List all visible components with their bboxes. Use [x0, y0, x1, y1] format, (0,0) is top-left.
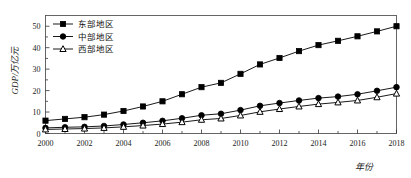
svg-text:2016: 2016 — [350, 139, 366, 148]
svg-text:0: 0 — [37, 130, 41, 139]
svg-text:2008: 2008 — [194, 139, 210, 148]
svg-text:2014: 2014 — [311, 139, 327, 148]
svg-text:50: 50 — [33, 22, 41, 31]
svg-text:30: 30 — [33, 65, 41, 74]
chart-plot-area: 2000200220042006200820102012201420162018… — [0, 0, 411, 178]
svg-text:2010: 2010 — [233, 139, 249, 148]
svg-text:2006: 2006 — [155, 139, 171, 148]
svg-text:中部地区: 中部地区 — [78, 32, 114, 42]
chart-legend: 东部地区中部地区西部地区 — [53, 19, 114, 54]
svg-text:东部地区: 东部地区 — [78, 19, 114, 29]
svg-text:20: 20 — [33, 87, 41, 96]
chart-figure: GDP/万亿元 年份 20002002200420062008201020122… — [0, 0, 411, 178]
series-中部地区 — [43, 84, 400, 130]
svg-text:2012: 2012 — [272, 139, 288, 148]
svg-text:西部地区: 西部地区 — [78, 44, 114, 54]
svg-text:2018: 2018 — [389, 139, 405, 148]
svg-text:2004: 2004 — [116, 139, 132, 148]
svg-text:40: 40 — [33, 44, 41, 53]
svg-text:2000: 2000 — [38, 139, 54, 148]
svg-text:10: 10 — [33, 108, 41, 117]
svg-text:2002: 2002 — [77, 139, 93, 148]
